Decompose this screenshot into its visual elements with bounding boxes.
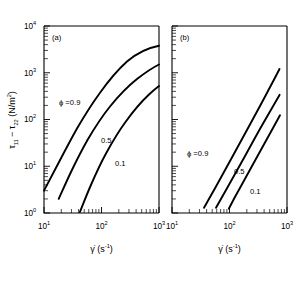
panel-b-x-tick-label-1: 102	[223, 220, 235, 231]
panel-a-label: (a)	[52, 33, 62, 42]
y-axis-title: τ11 − τ22 (N/m2)	[6, 91, 19, 149]
panel-b-label-phi-0-5: 0.5	[234, 167, 245, 176]
panel-a-label-phi-0-5: 0.5	[101, 136, 112, 145]
y-tick-label-2: 102	[24, 113, 36, 124]
panel-a-x-axis-title: γ̇ (s-1)	[90, 243, 113, 254]
panel-a: (a) ϕ =0.9 0.5 0.1 100 101 102 103 104 1…	[24, 20, 165, 254]
panel-a-x-tick-labels: 101 102 103	[38, 220, 165, 231]
panel-b-label: (b)	[180, 33, 190, 42]
panel-b-x-tick-label-2: 103	[281, 220, 293, 231]
panel-a-x-tick-label-0: 101	[38, 220, 50, 231]
panel-b-label-phi-0-9: ϕ =0.9	[187, 149, 208, 158]
panel-a-x-tick-label-1: 102	[95, 220, 107, 231]
figure-container: (a) ϕ =0.9 0.5 0.1 100 101 102 103 104 1…	[0, 0, 295, 284]
panel-b-y-minor-ticks	[172, 28, 176, 199]
panel-b-curve-phi-0-5	[216, 95, 280, 208]
panel-b-label-phi-0-1: 0.1	[250, 187, 261, 196]
y-tick-label-1: 101	[24, 160, 36, 171]
y-tick-label-4: 104	[24, 20, 36, 31]
y-tick-label-3: 103	[24, 67, 36, 78]
panel-b: (b) ϕ =0.9 0.5 0.1 101 102 103 γ̇ (s-1)	[166, 26, 293, 254]
panel-a-curve-phi-0-5	[59, 65, 159, 199]
y-tick-label-0: 100	[24, 207, 36, 218]
panel-a-label-phi-0-9: ϕ =0.9	[59, 98, 80, 107]
y-axis-title-group: τ11 − τ22 (N/m2)	[6, 91, 19, 149]
y-tick-labels: 100 101 102 103 104	[24, 20, 36, 218]
panel-b-x-axis-title: γ̇ (s-1)	[218, 243, 241, 254]
panel-a-x-tick-label-2: 103	[153, 220, 165, 231]
panel-a-y-minor-ticks	[44, 28, 48, 199]
chart-svg: (a) ϕ =0.9 0.5 0.1 100 101 102 103 104 1…	[0, 0, 295, 284]
panel-a-label-phi-0-1: 0.1	[115, 159, 126, 168]
panel-b-x-tick-labels: 101 102 103	[166, 220, 293, 231]
panel-b-x-minor-ticks	[189, 209, 284, 213]
panel-b-x-tick-label-0: 101	[166, 220, 178, 231]
panel-a-x-minor-ticks	[61, 209, 156, 213]
